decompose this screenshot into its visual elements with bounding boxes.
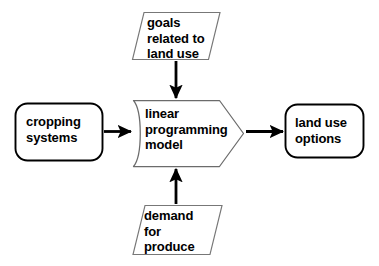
node-label-land-use-options: land use options	[295, 115, 370, 146]
node-label-demand-for-produce: demand for produce	[144, 208, 224, 255]
diagram-canvas: cropping systems linear programming mode…	[0, 0, 379, 266]
node-label-goals-related-to-land-use: goals related to land use	[147, 15, 227, 62]
node-label-cropping-systems: cropping systems	[26, 114, 106, 145]
node-label-linear-programming-model: linear programming model	[145, 106, 240, 153]
